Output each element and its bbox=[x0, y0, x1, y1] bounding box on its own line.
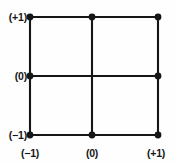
x-axis-label-minus-one: (−1) bbox=[8, 148, 52, 159]
node-bottom-right bbox=[155, 132, 162, 139]
node-middle-right bbox=[155, 73, 162, 80]
node-bottom-center bbox=[89, 132, 96, 139]
node-top-right bbox=[155, 14, 162, 21]
node-bottom-left bbox=[27, 132, 34, 139]
y-axis-label-zero: (0) bbox=[0, 71, 27, 82]
node-top-left bbox=[27, 14, 34, 21]
node-top-center bbox=[89, 14, 96, 21]
node-middle-left bbox=[27, 73, 34, 80]
grid-diagram-figure: (+1) (0) (−1) (−1) (0) (+1) bbox=[0, 0, 176, 164]
y-axis-label-minus-one: (−1) bbox=[0, 130, 27, 141]
x-axis-label-plus-one: (+1) bbox=[136, 148, 176, 159]
x-axis-label-zero: (0) bbox=[70, 148, 114, 159]
y-axis-label-plus-one: (+1) bbox=[0, 12, 27, 23]
